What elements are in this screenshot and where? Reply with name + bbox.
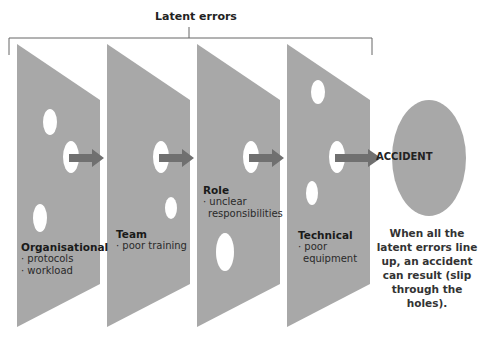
- label-team: Team · poor training: [116, 228, 187, 252]
- panel-organisational: [17, 44, 100, 327]
- label-technical: Technical · poor equipment: [298, 229, 357, 265]
- label-role: Role · unclear responsibilities: [203, 184, 283, 220]
- accident-label: ACCIDENT: [376, 151, 432, 162]
- caption: When all the latent errors line up, an a…: [372, 226, 482, 310]
- panel-team: [107, 44, 190, 327]
- label-organisational: Organisational · protocols · workload: [21, 241, 108, 277]
- latent-errors-title: Latent errors: [155, 10, 237, 23]
- latent-errors-bracket: [9, 27, 372, 55]
- panel-technical: [287, 44, 370, 327]
